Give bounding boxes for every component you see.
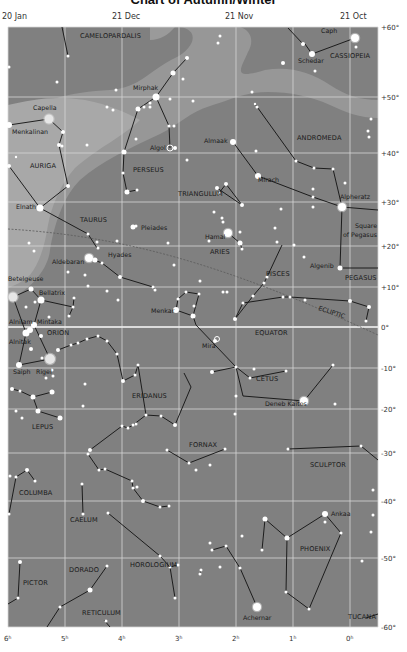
star: [58, 416, 63, 421]
star-label: Achernar: [243, 614, 272, 621]
star: [127, 427, 130, 430]
star: [334, 403, 337, 406]
star: [97, 247, 100, 250]
star: [45, 354, 55, 364]
constellation-label: CAELUM: [70, 516, 98, 524]
star: [167, 242, 170, 245]
star: [45, 115, 54, 124]
star: [188, 462, 191, 465]
star: [222, 221, 225, 224]
star: [137, 364, 140, 367]
star: [36, 409, 41, 414]
star: [135, 423, 138, 426]
star: [314, 70, 317, 73]
star: [21, 417, 24, 420]
star: [19, 390, 22, 393]
star: [182, 78, 185, 81]
star: [241, 535, 244, 538]
star: [159, 555, 162, 558]
star: [240, 203, 244, 207]
constellation-label: EQUATOR: [255, 329, 288, 337]
star-label: Hyades: [108, 251, 131, 259]
star: [136, 486, 139, 489]
star: [86, 144, 89, 147]
star: [173, 125, 176, 128]
star: [168, 505, 171, 508]
star: [59, 606, 62, 609]
star: [209, 464, 212, 467]
star: [370, 531, 373, 534]
star: [31, 395, 36, 400]
dec-label: +40°: [381, 150, 399, 158]
star-label: Algol: [150, 144, 166, 152]
star: [233, 317, 237, 321]
star: [84, 274, 87, 277]
star: [56, 81, 59, 84]
star: [210, 370, 214, 374]
star: [152, 286, 155, 289]
star: [226, 291, 229, 294]
star-label: Alnitak: [9, 338, 31, 345]
star: [87, 233, 90, 236]
star: [235, 366, 238, 369]
star: [61, 130, 65, 134]
star: [242, 302, 245, 305]
star: [135, 138, 138, 141]
star: [285, 591, 288, 594]
star: [287, 448, 290, 451]
star: [143, 106, 146, 109]
star: [28, 242, 31, 245]
star: [365, 320, 368, 323]
dec-label: -40°: [381, 498, 396, 506]
star: [186, 159, 189, 162]
star-label: Alnilam: [9, 318, 33, 325]
star: [254, 103, 256, 105]
ra-label: 5h: [61, 635, 68, 644]
star: [276, 241, 279, 244]
dec-label: -50°: [381, 555, 396, 563]
star: [8, 513, 11, 516]
star: [104, 468, 107, 471]
star-label: Almaak: [204, 137, 228, 144]
star: [87, 285, 90, 288]
star: [303, 256, 306, 259]
star: [85, 254, 93, 262]
star: [249, 377, 252, 380]
star: [15, 476, 18, 479]
star: [367, 130, 370, 133]
star: [193, 305, 196, 308]
star: [86, 338, 89, 341]
star: [121, 425, 124, 428]
ra-label: 2h: [232, 635, 239, 644]
star: [211, 549, 214, 552]
star-label: Mira: [202, 342, 216, 349]
star: [253, 603, 261, 611]
star: [372, 489, 375, 492]
star: [134, 374, 137, 377]
star: [67, 271, 70, 274]
constellation-label: TRIANGULUM: [177, 190, 223, 198]
star: [18, 560, 22, 564]
star: [106, 106, 109, 109]
star: [285, 536, 290, 541]
star-label: Elnath: [16, 203, 36, 210]
star: [361, 560, 364, 563]
star: [15, 156, 17, 158]
star: [135, 225, 138, 228]
dec-label: +50°: [381, 94, 399, 102]
constellation-label: HOROLOGIUM: [130, 561, 177, 569]
star: [38, 297, 45, 304]
star: [118, 275, 122, 279]
special-label: Square: [355, 222, 377, 230]
star: [340, 532, 343, 535]
star: [192, 100, 195, 103]
dec-label: +30°: [381, 199, 399, 207]
star: [313, 167, 316, 170]
special-label: of Pegasus: [343, 231, 377, 239]
dec-label: -10°: [381, 365, 396, 373]
star: [370, 118, 373, 121]
ra-label: 1h: [289, 635, 296, 644]
star: [256, 106, 259, 109]
star: [34, 480, 37, 483]
date-label: 20 Jan: [2, 12, 27, 21]
